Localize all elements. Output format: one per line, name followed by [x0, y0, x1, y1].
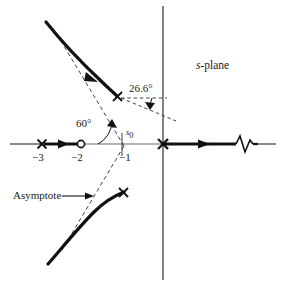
- s-plane-roman-suffix: -plane: [200, 59, 229, 71]
- upper-branch-group: [46, 22, 122, 101]
- asymptote-callout-group: [62, 193, 94, 200]
- test-point-subscript: 0: [129, 130, 133, 140]
- asymptote-upper-60deg-line: [58, 36, 124, 146]
- upper-complex-branch-curve: [46, 22, 117, 96]
- tick-label-minus-1: −1: [119, 152, 131, 163]
- asymptote-callout-arrowhead: [85, 193, 94, 200]
- upper-branch-tip-x-icon: [113, 92, 122, 101]
- angle-label-60-degrees: 60°: [76, 118, 91, 129]
- test-point-label-s0: s0: [126, 128, 134, 137]
- lower-complex-branch-curve: [48, 192, 124, 264]
- zero-minus-2-o-icon: [77, 140, 84, 147]
- root-locus-canvas: [0, 0, 282, 286]
- asymptote-label: Asymptote: [13, 190, 61, 201]
- angle-26-6-ray: [121, 98, 176, 121]
- locus-direction-arrow-left: [58, 140, 69, 149]
- axis-break-zigzag-icon: [236, 136, 253, 152]
- tick-label-minus-2: −2: [71, 152, 83, 163]
- root-locus-figure: −3 −2 −1 60° 26.6° s0 s-plane Asymptote: [0, 0, 282, 286]
- locus-direction-arrow-right: [198, 140, 210, 149]
- angle-label-26-6-degrees: 26.6°: [129, 83, 153, 94]
- tick-label-minus-3: −3: [32, 152, 44, 163]
- angle-60-arc-group: [98, 119, 117, 144]
- angle-26-6-group: [121, 98, 176, 121]
- s-plane-label: s-plane: [196, 60, 229, 72]
